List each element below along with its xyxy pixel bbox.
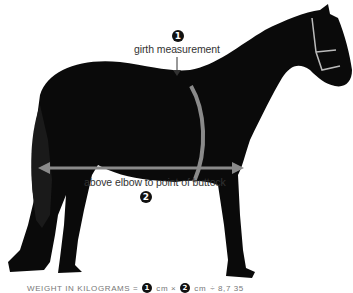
formula-badge-1: 1	[142, 283, 152, 293]
formula-term2-unit: cm	[194, 284, 206, 293]
measurement-badge-1: 1	[172, 30, 184, 42]
measurement-badge-2: 2	[140, 191, 152, 203]
formula-badge-2: 2	[180, 283, 190, 293]
formula-term1-unit: cm ×	[156, 284, 176, 293]
weight-formula: WEIGHT IN KILOGRAMS = 1 cm × 2 cm ÷ 8,7 …	[27, 283, 244, 293]
formula-prefix: WEIGHT IN KILOGRAMS =	[27, 284, 138, 293]
girth-measurement-label: girth measurement	[134, 43, 220, 55]
formula-suffix: ÷ 8,7 35	[210, 284, 244, 293]
length-measurement-label: above elbow to point of buttock	[84, 176, 226, 188]
